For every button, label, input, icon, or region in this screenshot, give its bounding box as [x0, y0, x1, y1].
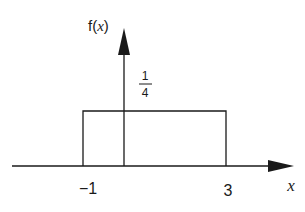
x-tick-3: 3: [224, 182, 233, 199]
y-axis-label: f(x): [88, 17, 109, 34]
density-rectangle: [83, 111, 226, 166]
height-label-numerator: 1: [142, 69, 149, 83]
uniform-distribution-diagram: f(x) 1 4 −1 3 x: [0, 0, 305, 212]
y-axis-arrow-icon: [118, 28, 130, 55]
x-axis-arrow-icon: [268, 160, 294, 172]
x-axis-label: x: [286, 176, 295, 195]
x-tick-minus-1: −1: [79, 180, 97, 197]
height-label-denominator: 4: [142, 86, 149, 100]
